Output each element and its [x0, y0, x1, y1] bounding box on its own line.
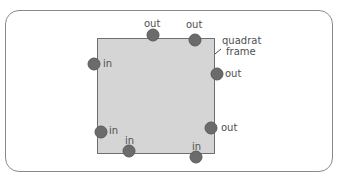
organism-dot-left-lower	[95, 126, 108, 139]
organism-dot-right-upper	[211, 68, 224, 81]
organism-dot-right-lower	[205, 122, 218, 135]
dot-label-left-upper: in	[103, 59, 112, 69]
quadrat-frame-label: quadrat frame	[222, 35, 261, 57]
organism-dot-top-2	[189, 34, 202, 47]
dot-label-bottom-2: in	[192, 142, 201, 152]
frame-label-line1: quadrat	[222, 35, 261, 46]
organism-dot-left-upper	[88, 58, 101, 71]
organism-dot-top-1	[147, 29, 160, 42]
dot-label-right-upper: out	[225, 69, 241, 79]
organism-dot-bottom-1	[123, 145, 136, 158]
dot-label-right-lower: out	[221, 123, 237, 133]
dot-label-left-lower: in	[109, 126, 118, 136]
frame-label-line2: frame	[222, 46, 261, 57]
leader-line	[0, 0, 339, 176]
dot-label-bottom-1: in	[125, 136, 134, 146]
organism-dot-bottom-2	[190, 151, 203, 164]
dot-label-top-1: out	[144, 19, 160, 29]
dot-label-top-2: out	[186, 20, 202, 30]
